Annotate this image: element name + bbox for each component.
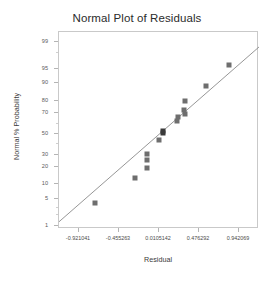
x-tick-mark [158,228,159,232]
data-point [176,115,181,120]
data-point [203,84,208,89]
x-tick-label: -0.921041 [66,235,90,241]
y-tick-label: 30 [42,151,48,157]
data-point [161,128,166,133]
data-point [226,62,231,67]
data-point [182,98,187,103]
data-point [133,176,138,181]
data-point [144,151,149,156]
y-axis-title: Normal % Probability [12,67,21,187]
x-tick-mark [198,228,199,232]
data-point [93,200,98,205]
x-tick-label: 0.0105142 [145,235,170,241]
data-point [156,137,161,142]
x-tick-mark [78,228,79,232]
x-tick-label: -0.455263 [106,235,130,241]
x-axis: -0.921041-0.4552630.01051420.4762920.942… [0,228,274,258]
x-tick-mark [238,228,239,232]
x-tick-mark [118,228,119,232]
y-tick-label: 10 [42,180,48,186]
y-tick-label: 5 [45,195,48,201]
data-point [183,111,188,116]
x-axis-title: Residual [58,255,258,264]
y-tick-label: 90 [42,79,48,85]
y-tick-label: 95 [42,65,48,71]
plot-area [58,31,258,228]
y-tick-label: 50 [42,130,48,136]
plot-inner [59,32,257,227]
y-tick-label: 80 [42,97,48,103]
normal-probability-plot-figure: Normal Plot of Residuals 151020305070809… [0,0,274,289]
data-point [144,165,149,170]
x-tick-label: 0.476292 [187,235,209,241]
y-tick-label: 99 [42,38,48,44]
y-tick-label: 20 [42,163,48,169]
data-point [145,158,150,163]
y-tick-label: 70 [42,109,48,115]
y-tick-label: 1 [45,222,48,228]
x-tick-label: 0.942069 [227,235,249,241]
